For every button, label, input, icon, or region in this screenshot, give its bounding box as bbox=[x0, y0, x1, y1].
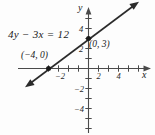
x-axis-label: x bbox=[142, 70, 146, 80]
y-tick-label-2: 2 bbox=[79, 45, 83, 54]
y-tick-label-neg4: −4 bbox=[74, 105, 84, 114]
coordinate-plane bbox=[0, 0, 155, 135]
y-intercept-point-label: (0, 3) bbox=[89, 40, 110, 50]
x-tick-label-4: 4 bbox=[117, 72, 121, 81]
y-axis-label: y bbox=[78, 3, 82, 13]
graph-figure: 4y − 3x = 12 (0, 3) (−4, 0) x y −2 2 4 4… bbox=[0, 0, 155, 135]
y-tick-label-4: 4 bbox=[79, 25, 83, 34]
y-tick-label-neg2: −2 bbox=[74, 85, 84, 94]
x-axis bbox=[18, 66, 151, 72]
x-tick-label-2: 2 bbox=[97, 72, 101, 81]
y-axis bbox=[86, 7, 92, 133]
x-intercept-point-label: (−4, 0) bbox=[21, 51, 48, 61]
x-tick-label-neg2: −2 bbox=[55, 72, 65, 81]
equation-annotation: 4y − 3x = 12 bbox=[8, 29, 69, 40]
